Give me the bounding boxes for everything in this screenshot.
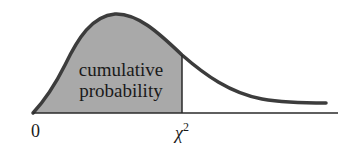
shaded-area-label-line1: cumulative [61,59,181,80]
origin-label: 0 [31,121,40,142]
shaded-area-label: cumulative probability [61,59,181,101]
shaded-area-label-line2: probability [61,80,181,101]
critical-value-label: χ2 [175,120,189,144]
chi-symbol: χ [175,123,183,143]
chi-superscript: 2 [183,120,189,134]
chi-square-diagram: cumulative probability 0 χ2 [0,0,359,155]
